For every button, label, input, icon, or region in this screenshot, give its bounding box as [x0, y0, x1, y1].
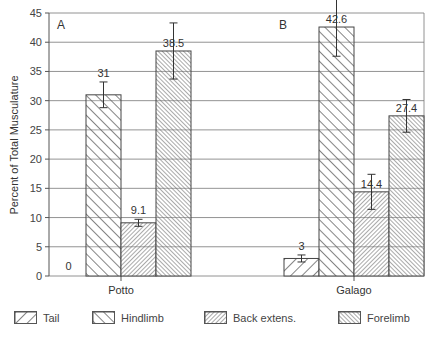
legend-item-hindlimb: Hindlimb — [92, 311, 164, 324]
svg-text:15: 15 — [30, 182, 42, 194]
back-extens-swatch-icon — [204, 311, 227, 324]
svg-text:10: 10 — [30, 212, 42, 224]
legend-label: Back extens. — [233, 312, 296, 324]
legend-label: Hindlimb — [121, 312, 164, 324]
svg-text:0: 0 — [65, 260, 71, 272]
svg-text:30: 30 — [30, 95, 42, 107]
category-label-potto: Potto — [108, 284, 134, 296]
bars — [86, 0, 424, 276]
svg-text:20: 20 — [30, 153, 42, 165]
svg-text:3: 3 — [298, 240, 304, 252]
panel-label-b: B — [279, 18, 287, 32]
hindlimb-swatch-icon — [92, 311, 115, 324]
svg-text:40: 40 — [30, 36, 42, 48]
svg-text:31: 31 — [97, 67, 109, 79]
svg-text:14.4: 14.4 — [361, 178, 382, 190]
svg-text:9.1: 9.1 — [131, 204, 146, 216]
svg-text:35: 35 — [30, 65, 42, 77]
svg-text:25: 25 — [30, 124, 42, 136]
legend-item-back-extens: Back extens. — [204, 311, 296, 324]
svg-text:45: 45 — [30, 7, 42, 19]
svg-text:0: 0 — [36, 270, 42, 282]
legend-label: Forelimb — [367, 312, 410, 324]
svg-text:27.4: 27.4 — [396, 102, 417, 114]
y-axis-label: Percent of Total Musculature — [8, 75, 20, 214]
legend: Tail Hindlimb Back extens. Forelimb — [0, 311, 435, 327]
svg-text:5: 5 — [36, 241, 42, 253]
category-label-galago: Galago — [336, 284, 371, 296]
forelimb-swatch-icon — [338, 311, 361, 324]
svg-text:38.5: 38.5 — [163, 37, 184, 49]
bar-chart: 051015202530354045 0319.138.5342.614.427… — [0, 0, 435, 310]
panel-label-a: A — [57, 18, 65, 32]
svg-text:42.6: 42.6 — [326, 13, 347, 25]
tail-swatch-icon — [14, 311, 37, 324]
legend-label: Tail — [43, 312, 60, 324]
legend-item-tail: Tail — [14, 311, 60, 324]
legend-item-forelimb: Forelimb — [338, 311, 410, 324]
